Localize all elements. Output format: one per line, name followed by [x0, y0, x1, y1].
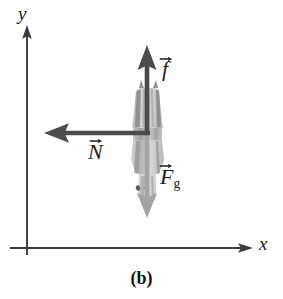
vector-label-friction: f — [162, 58, 168, 80]
vector-label-gravity: F g — [160, 166, 180, 190]
coordinate-axes — [10, 25, 253, 255]
x-axis-label: x — [259, 234, 267, 253]
force-diagram-figure: y x f N F g (b) — [0, 0, 283, 299]
vector-overbar-arrow-icon — [159, 162, 172, 169]
vector-symbol-gravity: F — [160, 166, 173, 188]
force-diagram-canvas — [0, 0, 283, 299]
figure-caption: (b) — [0, 268, 283, 289]
vector-overbar-arrow-icon — [89, 137, 102, 144]
vector-overbar-arrow-icon — [159, 55, 172, 62]
vector-symbol-normal: N — [88, 141, 103, 163]
vector-label-normal: N — [88, 141, 103, 163]
y-axis-label: y — [18, 4, 26, 23]
vector-subscript-gravity: g — [173, 176, 180, 191]
